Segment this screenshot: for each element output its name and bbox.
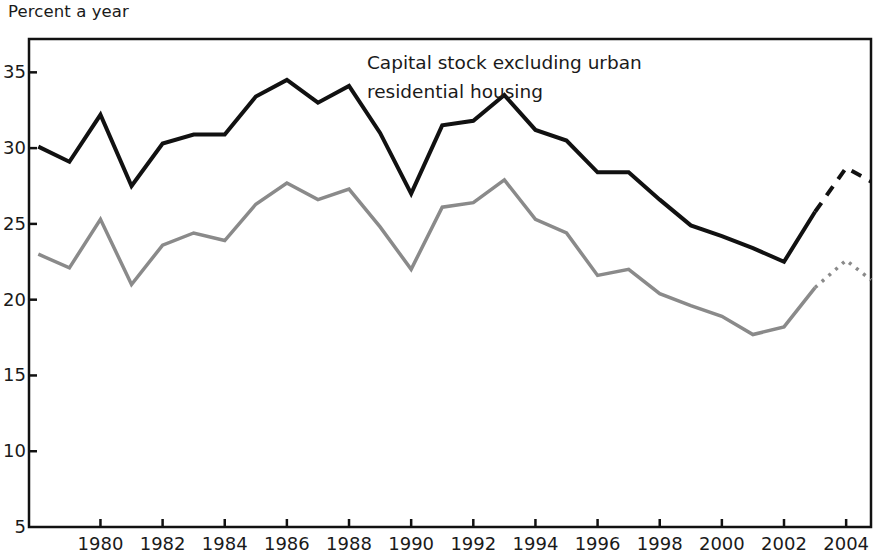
- series-forecast-line-1: [815, 260, 871, 287]
- annotation-line-2: residential housing: [367, 78, 642, 107]
- x-tick-label: 1996: [568, 535, 628, 553]
- data-series-group: [38, 80, 871, 335]
- chart-figure: Percent a year 3530252015105 19801982198…: [0, 0, 877, 554]
- x-tick-label: 1994: [505, 535, 565, 553]
- series-line-1: [38, 180, 815, 335]
- plot-frame: [29, 39, 871, 527]
- x-tick-label: 1990: [381, 535, 441, 553]
- y-tick-label: 10: [0, 442, 26, 460]
- y-tick-label: 5: [0, 518, 26, 536]
- y-tick-label: 15: [0, 366, 26, 384]
- x-tick-label: 2002: [754, 535, 814, 553]
- y-axis-title: Percent a year: [8, 2, 129, 21]
- y-tick-label: 20: [0, 291, 26, 309]
- x-tick-label: 2000: [692, 535, 752, 553]
- x-tick-label: 1986: [257, 535, 317, 553]
- x-tick-label: 1992: [443, 535, 503, 553]
- y-tick-label: 25: [0, 215, 26, 233]
- y-tick-label: 35: [0, 63, 26, 81]
- series-forecast-line-0: [815, 168, 871, 212]
- annotation-line-1: Capital stock excluding urban: [367, 49, 642, 78]
- x-tick-label: 1980: [70, 535, 130, 553]
- series-annotation-capital-stock: Capital stock excluding urban residentia…: [367, 49, 642, 106]
- x-tick-label: 2004: [816, 535, 876, 553]
- x-tick-label: 1982: [133, 535, 193, 553]
- y-tick-label: 30: [0, 139, 26, 157]
- x-tick-label: 1984: [195, 535, 255, 553]
- x-tick-label: 1988: [319, 535, 379, 553]
- x-tick-label: 1998: [630, 535, 690, 553]
